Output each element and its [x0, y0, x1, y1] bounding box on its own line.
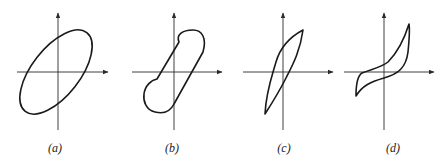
loop-curve	[356, 24, 409, 96]
panel-b	[132, 13, 222, 130]
panel-label-b: (b)	[165, 141, 179, 156]
hysteresis-figure	[0, 0, 447, 167]
panel-label-a: (a)	[48, 141, 62, 156]
panel-label-d: (d)	[386, 141, 400, 156]
panel-a	[6, 13, 108, 130]
panel-d	[344, 13, 434, 130]
panel-c	[243, 13, 333, 130]
panel-label-c: (c)	[277, 141, 290, 156]
